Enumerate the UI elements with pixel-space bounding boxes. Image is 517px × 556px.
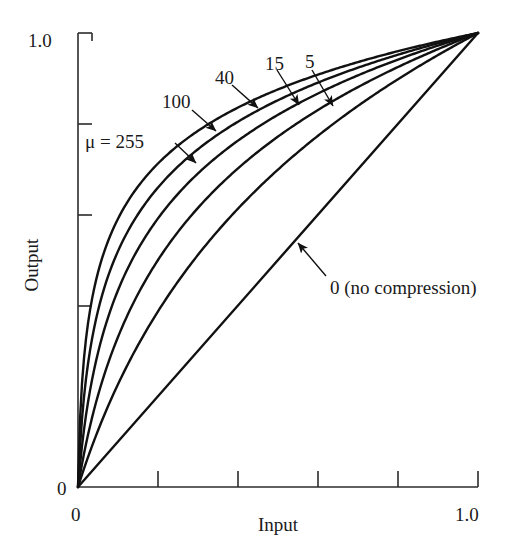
label-mu-255: μ = 255 — [85, 131, 144, 152]
y-axis-title: Output — [21, 238, 42, 292]
mu-law-compression-chart: μ = 255 100 40 15 5 0 (no compression) 1… — [0, 0, 517, 556]
x-axis-min-label: 0 — [71, 504, 81, 525]
label-mu-0: 0 (no compression) — [330, 277, 477, 299]
label-mu-5: 5 — [305, 51, 315, 72]
chart-svg: μ = 255 100 40 15 5 0 (no compression) 1… — [0, 0, 517, 556]
y-axis-max-label: 1.0 — [28, 30, 52, 51]
curves-group — [78, 33, 478, 487]
x-axis-max-label: 1.0 — [455, 504, 479, 525]
label-mu-40: 40 — [215, 67, 234, 88]
label-mu-100: 100 — [162, 91, 191, 112]
x-axis-title: Input — [258, 514, 299, 535]
leader-mu-0 — [298, 243, 326, 276]
label-mu-15: 15 — [265, 53, 284, 74]
y-axis-min-label: 0 — [57, 478, 67, 499]
